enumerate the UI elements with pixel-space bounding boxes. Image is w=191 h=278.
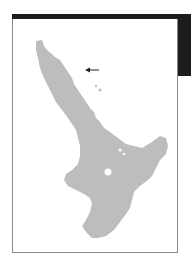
island bbox=[99, 89, 102, 92]
small-lake bbox=[118, 148, 121, 151]
island bbox=[95, 85, 97, 87]
location-arrow-icon bbox=[85, 68, 99, 73]
land-mass bbox=[36, 40, 168, 238]
north-island-map bbox=[0, 0, 191, 278]
lake-taupo bbox=[105, 169, 112, 176]
small-lake bbox=[123, 153, 125, 155]
